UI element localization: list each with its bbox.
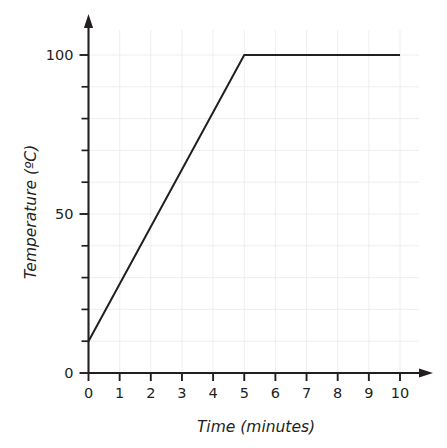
x-tick-label: 3 bbox=[177, 385, 186, 401]
x-tick-label: 2 bbox=[146, 385, 155, 401]
x-tick-label: 6 bbox=[271, 385, 280, 401]
y-tick-label: 100 bbox=[46, 47, 74, 63]
chart-figure: 050100 012345678910 Time (minutes) Tempe… bbox=[0, 0, 447, 448]
x-tick-label: 5 bbox=[240, 385, 249, 401]
y-axis-title: Temperature (ºC) bbox=[22, 145, 40, 279]
x-tick-label: 0 bbox=[84, 385, 93, 401]
x-axis-title: Time (minutes) bbox=[197, 418, 315, 436]
x-tick-label: 4 bbox=[208, 385, 217, 401]
temperature-time-line-chart: 050100 012345678910 Time (minutes) Tempe… bbox=[0, 0, 447, 448]
x-tick-label: 9 bbox=[364, 385, 373, 401]
y-tick-label: 0 bbox=[64, 365, 73, 381]
x-tick-label: 7 bbox=[302, 385, 311, 401]
x-tick-label: 8 bbox=[333, 385, 342, 401]
x-tick-label: 1 bbox=[115, 385, 124, 401]
y-tick-label: 50 bbox=[55, 206, 73, 222]
x-tick-label: 10 bbox=[391, 385, 409, 401]
